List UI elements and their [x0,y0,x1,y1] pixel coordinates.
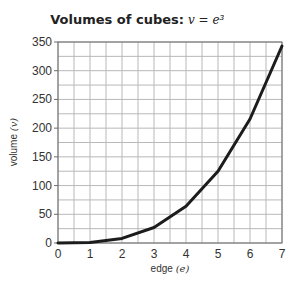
y-axis-label: volume (v) [8,118,19,167]
chart-title-formula: v = e³ [188,13,225,27]
chart-title: Volumes of cubes: [50,12,184,27]
y-tick-label: 350 [32,35,52,49]
x-tick-label: 5 [215,247,222,261]
x-axis-label-var: (e) [176,263,190,274]
grid [58,42,282,243]
y-axis-label-text: volume [8,134,19,167]
y-tick-label: 200 [32,121,52,135]
x-axis-label-text: edge [151,263,174,274]
y-tick-label: 250 [32,92,52,106]
y-tick-label: 50 [39,207,53,221]
ticks: 01234567050100150200250300350 [32,35,286,261]
y-tick-label: 0 [45,236,52,250]
x-tick-label: 3 [151,247,158,261]
x-tick-label: 7 [279,247,286,261]
chart-title-text: Volumes of cubes: [50,12,184,27]
y-tick-label: 300 [32,64,52,78]
x-tick-label: 6 [247,247,254,261]
y-tick-label: 150 [32,150,52,164]
chart: Volumes of cubes: v = e³ 012345670501001… [0,0,299,292]
y-axis-label-var: (v) [8,118,19,132]
x-axis-label: edge (e) [151,263,190,274]
x-tick-label: 4 [183,247,190,261]
y-tick-label: 100 [32,179,52,193]
x-tick-label: 1 [87,247,94,261]
x-tick-label: 0 [55,247,62,261]
x-tick-label: 2 [119,247,126,261]
